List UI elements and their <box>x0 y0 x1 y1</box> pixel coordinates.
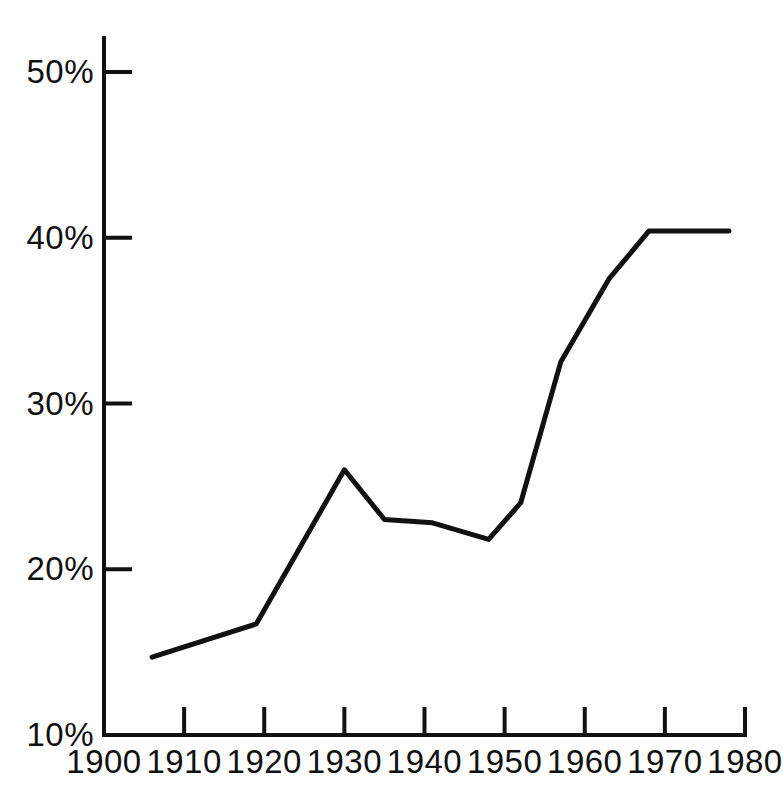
axes <box>104 38 745 735</box>
x-axis-tick-label: 1910 <box>146 743 221 781</box>
data-series-group <box>152 231 729 657</box>
x-axis-tick-label: 1980 <box>707 743 782 781</box>
x-axis-tick-label: 1970 <box>627 743 702 781</box>
x-axis-tick-label: 1960 <box>547 743 622 781</box>
y-axis-tick-label: 20% <box>0 550 94 588</box>
y-axis-tick-label: 40% <box>0 219 94 257</box>
y-axis-tick-label: 50% <box>0 53 94 91</box>
axis-lines <box>104 38 745 735</box>
x-axis-ticks <box>184 709 745 735</box>
x-axis-tick-label: 1900 <box>66 743 141 781</box>
x-axis-tick-label: 1920 <box>227 743 302 781</box>
x-axis-tick-label: 1930 <box>307 743 382 781</box>
data-line-1 <box>152 231 729 657</box>
y-axis-ticks <box>104 72 130 569</box>
x-axis-tick-label: 1940 <box>387 743 462 781</box>
x-axis-tick-label: 1950 <box>467 743 542 781</box>
y-axis-tick-label: 30% <box>0 385 94 423</box>
